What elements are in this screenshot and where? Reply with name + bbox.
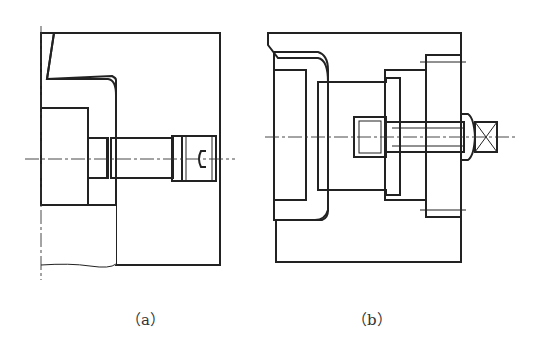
liner-b xyxy=(274,52,328,220)
body-b xyxy=(268,33,461,262)
plate-b xyxy=(426,55,461,217)
pin-a xyxy=(111,138,173,178)
panel-b xyxy=(265,33,515,262)
drawing-canvas xyxy=(0,0,535,349)
caption-a: （a） xyxy=(126,308,165,329)
screw-head-a xyxy=(172,136,216,181)
panel-a xyxy=(25,26,235,280)
insert-a xyxy=(41,33,116,205)
caption-b: （b） xyxy=(352,308,392,329)
